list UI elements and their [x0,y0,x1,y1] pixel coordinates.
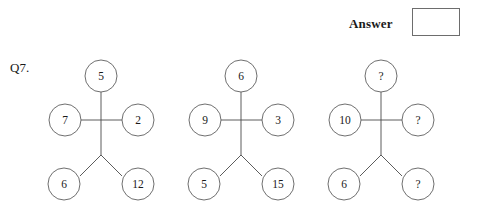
edge-bottom-right [381,155,402,176]
edge-bottom-right [241,155,262,176]
edge-bottom-left [80,155,101,176]
node-right-label: 2 [135,114,141,126]
node-left-label: 10 [339,114,351,126]
number-star-diagram-1: 5 7 2 6 12 [42,55,182,207]
node-bottom-right-label: 15 [272,178,284,190]
node-top-label: 5 [98,70,104,82]
answer-label: Answer [349,16,393,32]
node-bottom-left-label: 6 [61,178,67,190]
node-top-label: 6 [238,70,244,82]
node-left-label: 7 [62,114,68,126]
node-right-label: ? [415,114,420,126]
node-top-label: ? [378,70,383,82]
node-left-label: 9 [202,114,208,126]
answer-row: Answer [349,8,469,40]
node-bottom-left-label: 6 [341,178,347,190]
answer-input-box[interactable] [412,8,460,36]
node-bottom-right-label: 12 [132,178,144,190]
edge-bottom-right [101,155,122,176]
node-bottom-right-label: ? [415,178,420,190]
edge-bottom-left [220,155,241,176]
number-star-diagram-2: 6 9 3 5 15 [182,55,322,207]
node-right-label: 3 [275,114,281,126]
number-star-diagram-3: ? 10 ? 6 ? [322,55,462,207]
edge-bottom-left [360,155,381,176]
node-bottom-left-label: 5 [201,178,207,190]
question-number-label: Q7. [10,60,29,76]
